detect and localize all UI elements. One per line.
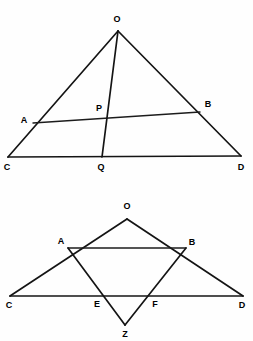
bottom-diagram-vertex-label-f: F: [152, 300, 158, 309]
top-diagram-vertex-label-a: A: [21, 116, 28, 125]
top-diagram-chord-AB: [33, 112, 200, 123]
bottom-diagram-vertex-label-e: E: [94, 300, 100, 309]
top-diagram-cevian-OQ: [102, 31, 118, 157]
top-diagram-vertex-label-c: C: [4, 163, 11, 172]
bottom-diagram-vertex-label-o: O: [123, 202, 130, 211]
top-diagram-side-OC: [8, 31, 118, 157]
bottom-diagram-segment-BZ: [125, 248, 186, 325]
top-diagram-lines: [8, 31, 241, 157]
geometry-canvas: [0, 0, 253, 341]
bottom-diagram-side-OD: [127, 219, 243, 296]
bottom-diagram-side-OC: [10, 219, 127, 296]
bottom-diagram-vertex-label-c: C: [6, 301, 13, 310]
top-diagram-vertex-label-o: O: [113, 15, 120, 24]
bottom-diagram-segment-AZ: [68, 248, 125, 325]
top-diagram-vertex-label-b: B: [205, 100, 212, 109]
top-diagram-vertex-label-p: P: [96, 104, 102, 113]
bottom-diagram-lines: [10, 219, 243, 325]
top-diagram-vertex-label-d: D: [238, 163, 245, 172]
top-diagram-vertex-label-q: Q: [97, 163, 104, 172]
bottom-diagram-vertex-label-a: A: [58, 237, 65, 246]
bottom-diagram-vertex-label-z: Z: [122, 330, 128, 339]
top-diagram-side-OD: [118, 31, 241, 156]
top-diagram-base-CD: [8, 156, 241, 157]
bottom-diagram-vertex-label-d: D: [239, 301, 246, 310]
bottom-diagram-vertex-label-b: B: [189, 238, 196, 247]
geometry-figure: OABCDPQ OABCDEFZ: [0, 0, 253, 341]
